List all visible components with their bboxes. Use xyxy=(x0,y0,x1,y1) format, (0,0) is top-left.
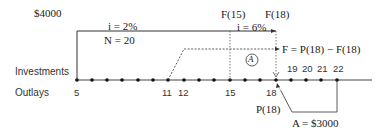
periods-label: N = 20 xyxy=(104,35,135,46)
tick-12: 12 xyxy=(178,88,189,98)
annuity-label: A = $3000 xyxy=(292,118,339,129)
f15-label: F(15) xyxy=(221,9,245,20)
f18-label: F(18) xyxy=(265,9,289,20)
initial-amount-label: $4000 xyxy=(34,8,62,19)
tick-11: 11 xyxy=(162,88,172,98)
marker-a: A xyxy=(248,55,254,64)
tick-20: 20 xyxy=(302,64,313,74)
tick-18: 18 xyxy=(266,88,277,98)
equation-label: F = P(18) − F(18) xyxy=(282,44,360,55)
tick-19: 19 xyxy=(287,64,298,74)
rate2-label: i = 6% xyxy=(237,22,266,33)
tick-15: 15 xyxy=(225,88,236,98)
tick-5: 5 xyxy=(74,88,79,98)
tick-21: 21 xyxy=(317,64,328,74)
tick-22: 22 xyxy=(333,64,344,74)
investments-label: Investments xyxy=(15,67,69,77)
rate1-label: i = 2% xyxy=(108,21,137,32)
p18-label: P(18) xyxy=(256,104,280,115)
outlays-label: Outlays xyxy=(15,88,49,98)
